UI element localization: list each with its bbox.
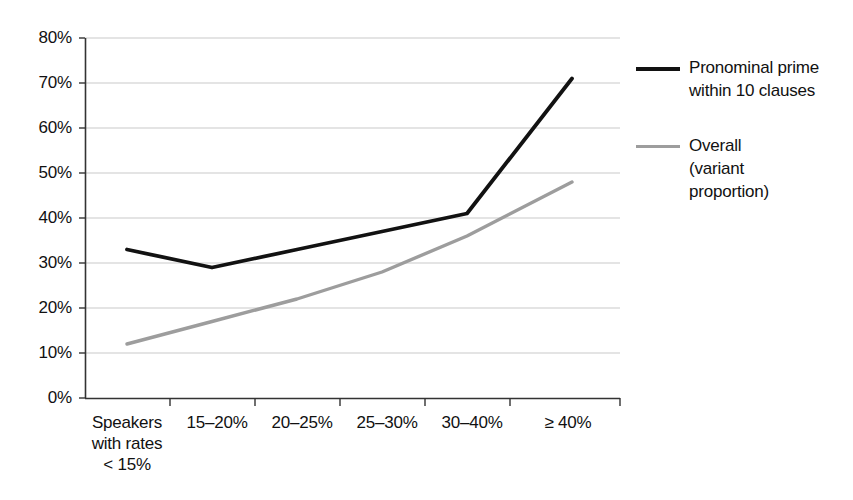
- y-tick-label-0: 0%: [0, 388, 72, 408]
- y-tick-label-60: 60%: [0, 118, 72, 138]
- line-chart: 80% 70% 60% 50% 40% 30% 20% 10% 0% Speak…: [0, 0, 853, 500]
- x-tick-label-40-plus: ≥ 40%: [528, 412, 608, 433]
- x-tick-label-25-30: 25–30%: [347, 412, 427, 433]
- x-tick-label-30-40: 30–40%: [432, 412, 512, 433]
- legend: Pronominal prime within 10 clauses Overa…: [636, 56, 851, 203]
- y-tick-marks: [79, 38, 85, 398]
- legend-label-pronominal-prime: Pronominal prime within 10 clauses: [689, 56, 819, 102]
- legend-label-overall: Overall (variant proportion): [689, 134, 769, 203]
- legend-swatch-dark-line-icon: [636, 67, 680, 71]
- legend-swatch-gray-line-icon: [636, 145, 680, 148]
- y-tick-label-70: 70%: [0, 73, 72, 93]
- x-tick-label-20-25: 20–25%: [262, 412, 342, 433]
- y-tick-label-20: 20%: [0, 298, 72, 318]
- gridlines: [85, 38, 620, 353]
- y-tick-label-10: 10%: [0, 343, 72, 363]
- legend-item-pronominal-prime: Pronominal prime within 10 clauses: [636, 56, 851, 102]
- y-tick-label-40: 40%: [0, 208, 72, 228]
- legend-label-line3: proportion): [689, 180, 769, 203]
- legend-label-line1: Overall: [689, 134, 769, 157]
- legend-label-line2: (variant: [689, 157, 769, 180]
- y-tick-label-80: 80%: [0, 28, 72, 48]
- legend-label-line2: within 10 clauses: [689, 79, 819, 102]
- y-tick-label-30: 30%: [0, 253, 72, 273]
- x-tick-label-15-20: 15–20%: [177, 412, 257, 433]
- x-tick-label-line2: with rates: [62, 433, 192, 454]
- x-tick-label-line1: Speakers: [92, 413, 162, 432]
- legend-item-overall: Overall (variant proportion): [636, 134, 851, 203]
- x-tick-label-line3: < 15%: [62, 454, 192, 475]
- x-tick-label-speakers-with-rates-under-15: Speakers with rates < 15%: [62, 412, 192, 475]
- y-tick-label-50: 50%: [0, 163, 72, 183]
- legend-label-line1: Pronominal prime: [689, 56, 819, 79]
